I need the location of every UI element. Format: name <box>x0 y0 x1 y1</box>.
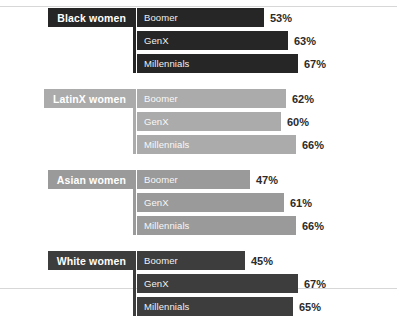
bar[interactable]: Boomer <box>137 89 286 108</box>
bar[interactable]: GenX <box>137 31 288 50</box>
bar-value-label: 61% <box>284 193 312 212</box>
bar[interactable]: GenX <box>137 274 298 293</box>
bar-value-label: 47% <box>250 170 278 189</box>
bar[interactable]: Millennials <box>137 297 293 316</box>
bar-series-label: Millennials <box>144 301 189 312</box>
top-divider <box>0 6 397 7</box>
bar-group: White womenBoomer45%GenX67%Millennials65… <box>0 251 397 316</box>
bar[interactable]: Millennials <box>137 135 296 154</box>
bar-value-label: 62% <box>286 89 314 108</box>
bar-series-label: Boomer <box>144 93 178 104</box>
group-label-chip[interactable]: White women <box>48 251 135 270</box>
bar[interactable]: Boomer <box>137 8 264 27</box>
bar-series-label: Boomer <box>144 255 178 266</box>
bar-series-label: Boomer <box>144 12 178 23</box>
group-label-chip[interactable]: Asian women <box>48 170 135 189</box>
bar-series-label: Millennials <box>144 139 189 150</box>
bar[interactable]: Millennials <box>137 216 296 235</box>
bar-series-label: Boomer <box>144 174 178 185</box>
bar-value-label: 65% <box>293 297 321 316</box>
bar-series-label: GenX <box>144 116 169 127</box>
bar-series-label: GenX <box>144 197 169 208</box>
bar-value-label: 60% <box>281 112 309 131</box>
bar[interactable]: Boomer <box>137 170 250 189</box>
group-label-chip[interactable]: LatinX women <box>44 89 135 108</box>
bar[interactable]: Boomer <box>137 251 245 270</box>
bar-series-label: Millennials <box>144 58 189 69</box>
bar-group: Black womenBoomer53%GenX63%Millennials67… <box>0 8 397 73</box>
bar-value-label: 66% <box>296 135 324 154</box>
bar-value-label: 53% <box>264 8 292 27</box>
bar[interactable]: GenX <box>137 112 281 131</box>
bar-series-label: Millennials <box>144 220 189 231</box>
bar-group: Asian womenBoomer47%GenX61%Millennials66… <box>0 170 397 235</box>
bar-series-label: GenX <box>144 278 169 289</box>
bar-value-label: 45% <box>245 251 273 270</box>
bar[interactable]: Millennials <box>137 54 298 73</box>
bar-value-label: 67% <box>298 54 326 73</box>
bar[interactable]: GenX <box>137 193 284 212</box>
bar-value-label: 66% <box>296 216 324 235</box>
group-label-chip[interactable]: Black women <box>48 8 135 27</box>
bar-value-label: 63% <box>288 31 316 50</box>
bar-value-label: 67% <box>298 274 326 293</box>
bar-group: LatinX womenBoomer62%GenX60%Millennials6… <box>0 89 397 154</box>
grouped-bar-chart: Black womenBoomer53%GenX63%Millennials67… <box>0 8 397 288</box>
bar-series-label: GenX <box>144 35 169 46</box>
